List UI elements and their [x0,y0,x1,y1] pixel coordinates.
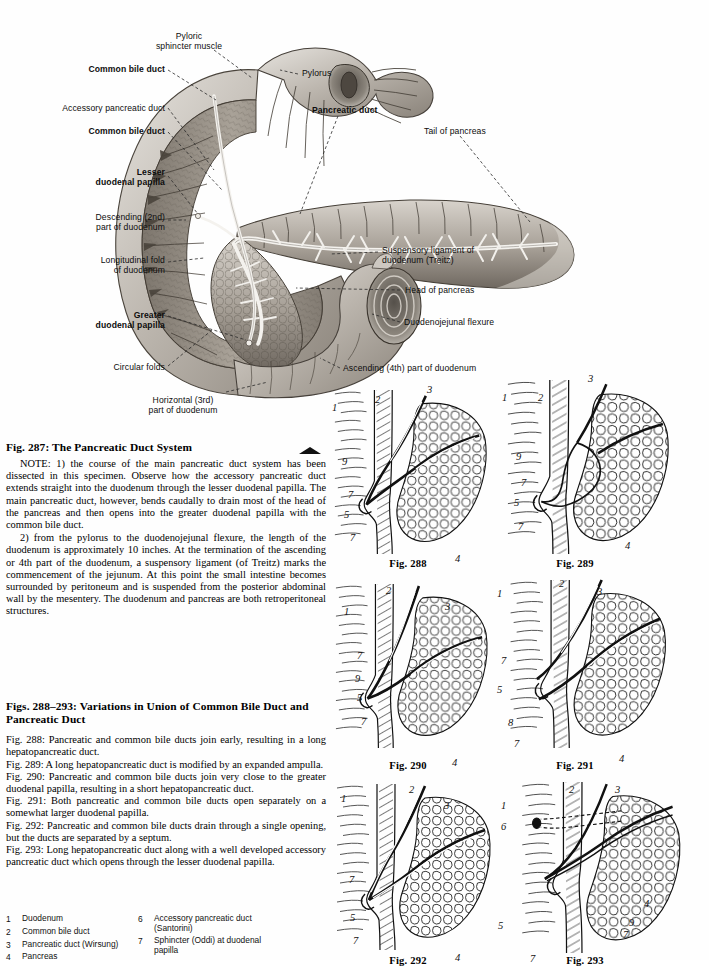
variation-fig-293 [498,780,703,955]
fig288-caption: Fig. 288: Pancreatic and common bile duc… [6,734,326,758]
key-label: Pancreatic duct (Wirsung) [22,940,136,950]
key-number: 3 [6,940,16,950]
fig293-caption: Fig. 293: Long hepatopancreatic duct alo… [6,844,326,868]
plate-label-accessory-pancreatic-duct: Accessory pancreatic duct [8,103,165,113]
key-number: 7 [138,936,148,946]
fig-288-leader-number: 2 [375,394,380,405]
fig287-paragraph-1: NOTE: 1) the course of the main pancreat… [6,458,326,531]
fig-288-leader-number: 3 [427,384,432,395]
plate-label-common-bile-duct-upper: Common bile duct [20,64,165,74]
fig-293-leader-number: 5 [498,920,503,931]
fig-293-leader-number: 7 [530,953,535,964]
fig-293-leader-number: 6 [501,821,506,832]
figs288-293-heading: Figs. 288–293: Variations in Union of Co… [6,700,326,725]
fig-290-leader-number: 9 [355,673,360,684]
fig-289-leader-number: 4 [625,540,630,551]
key-number: 6 [138,914,148,924]
plate-label-lesser-duodenal-papilla: Lesser duodenal papilla [10,167,165,188]
fig-289-caption-label: Fig. 289 [545,558,605,569]
fig-293-leader-number: 4 [644,898,649,909]
fig-288-leader-number: 7 [348,489,353,500]
fig-291-leader-number: 3 [597,586,602,597]
plate-label-common-bile-duct-lower: Common bile duct [20,126,165,136]
fig-292-caption-label: Fig. 292 [378,955,438,966]
fig-288-caption-label: Fig. 288 [378,558,438,569]
key-number: 2 [6,927,16,937]
fig291-caption: Fig. 291: Both pancreatic and common bil… [6,795,326,819]
key-label: Accessory pancreatic duct (Santorini) [154,914,328,933]
plate-label-ascending-4th-part-of-duodenum: Ascending (4th) part of duodenum [343,363,533,373]
key-column-left: 1Duodenum2Common bile duct3Pancreatic du… [6,914,136,965]
key-item-4: 4Pancreas [6,952,136,962]
fig-288-leader-number: 4 [455,553,460,564]
fig-293-leader-number: 9 [629,917,634,928]
plate-label-circular-folds: Circular folds [40,362,165,372]
plate-label-head-of-pancreas: Head of pancreas [405,285,525,295]
key-item-7: 7Sphincter (Oddi) at duodenal papilla [138,936,328,955]
fig-292-leader-number: 7 [353,935,358,946]
fig-290-leader-number: 3 [445,601,450,612]
fig-293-leader-number: 7 [623,929,628,940]
fig-293-leader-number: 2 [569,784,574,795]
plate-label-greater-duodenal-papilla: Greater duodenal papilla [10,310,165,331]
key-item-3: 3Pancreatic duct (Wirsung) [6,940,136,950]
key-label: Duodenum [22,914,136,924]
plate-label-tail-of-pancreas: Tail of pancreas [424,126,524,136]
key-label: Pancreas [22,952,136,962]
key-item-2: 2Common bile duct [6,927,136,937]
variation-fig-288 [330,388,490,556]
variation-fig-292 [333,782,493,952]
fig-291-leader-number: 2 [559,578,564,589]
fig-289-leader-number: 1 [502,392,507,403]
fig-289-leader-number: 5 [514,497,519,508]
fig-292-leader-number: 2 [409,784,414,795]
fig-292-leader-number: 3 [444,800,449,811]
variation-fig-291 [495,578,680,750]
plate-label-pyloric-sphincter-muscle: Pyloric sphincter muscle [134,31,244,52]
plate-label-duodenojejunal-flexure: Duodenojejunal flexure [404,317,544,327]
fig-291-leader-number: 8 [508,717,513,728]
fig290-caption: Fig. 290: Pancreatic and common bile duc… [6,771,326,795]
fig-293-caption-label: Fig. 293 [555,955,615,966]
fig-291-leader-number: 7 [514,738,519,749]
plate-label-pylorus: Pylorus [302,68,382,78]
fig-290-caption-label: Fig. 290 [378,760,438,771]
fig-293-leader-number: 1 [501,800,506,811]
fig292-caption: Fig. 292: Pancreatic and common bile duc… [6,820,326,844]
fig-289-leader-number: 9 [516,451,521,462]
fig-291-caption-label: Fig. 291 [545,760,605,771]
key-column-right: 6Accessory pancreatic duct (Santorini)7S… [138,914,328,959]
fig-291-leader-number: 4 [619,753,624,764]
fig-289-leader-number: 7 [518,521,523,532]
fig287-paragraph-2: 2) from the pylorus to the duodenojejuna… [6,532,326,617]
fig-290-leader-number: 5 [357,692,362,703]
fig-289-leader-number: 7 [521,477,526,488]
fig-291-leader-number: 1 [497,588,502,599]
fig-290-leader-number: 7 [361,716,366,727]
fig-291-leader-number: 7 [501,655,506,666]
fig-288-leader-number: 9 [342,456,347,467]
fig-292-leader-number: 5 [350,912,355,923]
fig-288-leader-number: 7 [350,532,355,543]
plate-label-descending-2nd-part-of-duodenum: Descending (2nd) part of duodenum [0,212,165,233]
plate-label-pancreatic-duct: Pancreatic duct [312,105,422,115]
variation-fig-290 [332,582,490,750]
fig-290-leader-number: 1 [344,606,349,617]
key-item-1: 1Duodenum [6,914,136,924]
fig-292-leader-number: 4 [455,952,460,963]
plate-label-horizontal-3rd-part-of-duodenum: Horizontal (3rd) part of duodenum [128,395,238,416]
key-number: 4 [6,952,16,962]
plate-label-suspensory-ligament-of-duodenum: Suspensory ligament of duodenum (Treitz) [382,245,532,266]
fig287-text-block: Fig. 287: The Pancreatic Duct System NOT… [6,441,326,618]
fig-292-leader-number: 7 [349,874,354,885]
fig-289-leader-number: 3 [588,373,593,384]
fig-290-leader-number: 7 [357,650,362,661]
fig289-caption: Fig. 289: A long hepatopancreatic duct i… [6,759,326,771]
figs288-293-text-block: Figs. 288–293: Variations in Union of Co… [6,700,326,868]
fig-292-leader-number: 1 [341,793,346,804]
plate-label-longitudinal-fold-of-duodenum: Longitudinal fold of duodenum [10,255,165,276]
fig-291-leader-number: 5 [497,684,502,695]
key-number: 1 [6,914,16,924]
fig-293-leader-number: 3 [615,784,620,795]
